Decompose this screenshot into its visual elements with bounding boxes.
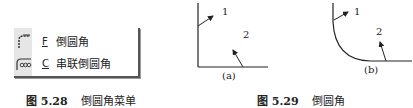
callout-label-b1: 1 <box>354 6 360 17</box>
fillet-diagrams <box>0 0 413 108</box>
caption-title: 倒圆角 <box>312 95 345 108</box>
callout-label-a1: 1 <box>222 6 228 17</box>
callout-arrow-1 <box>198 16 213 26</box>
panel-b <box>333 3 412 61</box>
panel-a <box>198 3 268 67</box>
callout-label-b2: 2 <box>376 26 382 37</box>
panel-label-b: (b) <box>364 64 378 75</box>
filleted-edge <box>333 3 412 61</box>
callout-arrow-1 <box>334 12 348 20</box>
callout-arrow-2 <box>380 42 386 61</box>
caption-number: 图 5.29 <box>257 95 299 108</box>
callout-label-a2: 2 <box>243 29 249 40</box>
panel-label-a: (a) <box>222 70 236 81</box>
figure-caption-5-29: 图 5.29 倒圆角 <box>257 92 345 108</box>
callout-arrow-2 <box>233 50 243 67</box>
